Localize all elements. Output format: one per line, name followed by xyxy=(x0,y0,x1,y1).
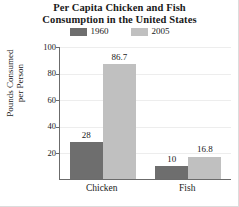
x-category-label-chicken: Chicken xyxy=(69,183,135,193)
bar-fish-2005[interactable] xyxy=(188,157,221,179)
y-tick-label-100: 100 xyxy=(32,43,56,52)
x-axis-category-labels: Chicken Fish xyxy=(59,183,230,193)
bar-series-container: 28 86.7 10 16.8 xyxy=(60,46,231,179)
y-axis-tick-labels: 100 80 60 40 20 xyxy=(32,41,56,181)
bar-fish-1960[interactable] xyxy=(155,166,188,179)
y-tick-label-60: 60 xyxy=(32,96,56,105)
plot-area: Pounds Consumed per Person 100 80 60 40 … xyxy=(0,0,239,207)
bar-slot-fish-1960: 10 xyxy=(155,46,188,179)
bar-value-fish-2005: 16.8 xyxy=(180,145,229,154)
bar-slot-chicken-2005: 86.7 xyxy=(103,46,136,179)
bar-value-chicken-2005: 86.7 xyxy=(95,53,144,62)
y-tick-label-40: 40 xyxy=(32,122,56,131)
chart-figure: Per Capita Chicken and Fish Consumption … xyxy=(0,0,239,207)
bar-group-fish: 10 16.8 xyxy=(155,46,221,179)
chart-axes: 28 86.7 10 16.8 xyxy=(59,47,231,180)
y-axis-label-line-2: per Person xyxy=(15,23,25,143)
y-axis-label-line-1: Pounds Consumed xyxy=(5,23,15,143)
y-tick-label-80: 80 xyxy=(32,69,56,78)
x-category-label-fish: Fish xyxy=(154,183,220,193)
bar-group-chicken: 28 86.7 xyxy=(70,46,136,179)
y-axis-label: Pounds Consumed per Person xyxy=(5,23,25,143)
bar-chicken-2005[interactable] xyxy=(103,64,136,179)
bar-slot-chicken-1960: 28 xyxy=(70,46,103,179)
bar-slot-fish-2005: 16.8 xyxy=(188,46,221,179)
y-tick-label-20: 20 xyxy=(32,149,56,158)
bar-chicken-1960[interactable] xyxy=(70,142,103,179)
